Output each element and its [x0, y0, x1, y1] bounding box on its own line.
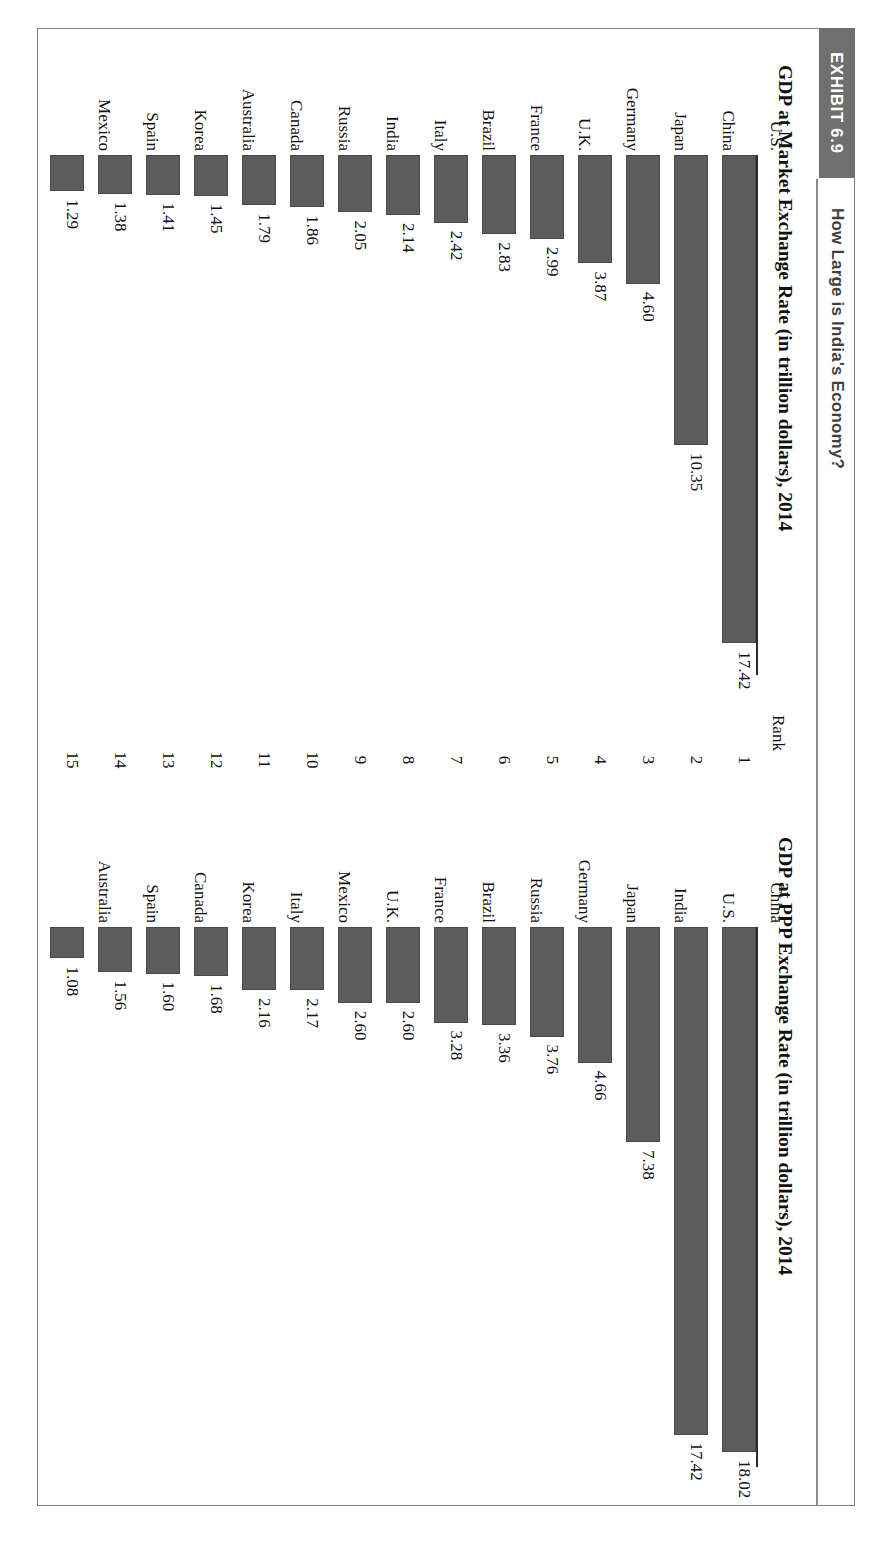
bar-row: Mexico1.29: [36, 63, 84, 683]
bar-row: Brazil2.42: [420, 63, 468, 683]
bar-wrapper: [482, 927, 516, 1025]
ppp-chart-bars: China18.02U.S.17.42India7.38Japan4.66Ger…: [36, 835, 756, 1495]
bar-value-label: 2.83: [494, 242, 514, 272]
bar-wrapper: [434, 155, 468, 223]
bar-wrapper: [194, 155, 228, 196]
bar-value-label: 18.02: [734, 1460, 754, 1498]
bar: [50, 927, 84, 958]
bar-wrapper: [674, 155, 708, 445]
ppp-chart-axis: [756, 927, 758, 1467]
bar: [578, 927, 612, 1063]
category-label: India: [382, 0, 402, 151]
category-label: U.K.: [574, 0, 594, 151]
bar-wrapper: [50, 927, 84, 958]
bar: [242, 927, 276, 990]
bar: [434, 927, 468, 1023]
bar-row: India7.38: [612, 835, 660, 1495]
bar-wrapper: [626, 155, 660, 284]
bar-wrapper: [50, 155, 84, 191]
bar: [290, 927, 324, 990]
bar: [146, 155, 180, 195]
bar: [530, 155, 564, 239]
bar-wrapper: [482, 155, 516, 234]
bar: [338, 155, 372, 212]
bar-wrapper: [434, 927, 468, 1023]
bar-wrapper: [242, 155, 276, 205]
market-chart-axis: [756, 155, 758, 675]
ppp-exchange-chart: GDP at PPP Exchange Rate (in trillion do…: [42, 835, 802, 1495]
bar-row: Germany3.76: [516, 835, 564, 1495]
bar-row: France2.60: [372, 835, 420, 1495]
bar-row: Germany3.87: [564, 63, 612, 683]
bar: [626, 927, 660, 1142]
bar-wrapper: [194, 927, 228, 976]
bar: [482, 927, 516, 1025]
exhibit-page: EXHIBIT 6.9 How Large is India's Economy…: [0, 0, 887, 1548]
bar: [146, 927, 180, 974]
bar-row: Australia1.45: [180, 63, 228, 683]
exhibit-tag: EXHIBIT 6.9: [819, 28, 855, 178]
category-label: Australia: [94, 723, 114, 923]
bar-wrapper: [98, 927, 132, 972]
bar-value-label: 2.16: [254, 998, 274, 1028]
category-label: U.K.: [382, 723, 402, 923]
bar: [434, 155, 468, 223]
category-label: Mexico: [94, 0, 114, 151]
category-label: France: [430, 723, 450, 923]
bar: [722, 155, 756, 643]
bar-row: China18.02: [708, 835, 756, 1495]
category-label: Korea: [238, 723, 258, 923]
bar-wrapper: [578, 155, 612, 263]
bar-value-label: 1.60: [158, 982, 178, 1012]
category-label: Italy: [430, 0, 450, 151]
bar: [290, 155, 324, 207]
bar-row: China10.35: [660, 63, 708, 683]
exhibit-frame: EXHIBIT 6.9 How Large is India's Economy…: [37, 28, 855, 1506]
bar-row: U.S.17.42: [708, 63, 756, 683]
bar-value-label: 1.38: [110, 202, 130, 232]
bar-row: Italy2.16: [228, 835, 276, 1495]
bar: [674, 927, 708, 1435]
bar: [194, 927, 228, 976]
category-label: U.S.: [718, 723, 738, 923]
bar-value-label: 1.68: [206, 984, 226, 1014]
category-label: Canada: [190, 723, 210, 923]
bar: [386, 927, 420, 1003]
rotated-page-wrapper: EXHIBIT 6.9 How Large is India's Economy…: [0, 0, 887, 1548]
bar-row: France2.83: [468, 63, 516, 683]
bar: [482, 155, 516, 234]
bar-wrapper: [722, 927, 756, 1452]
bar-value-label: 3.87: [590, 271, 610, 301]
bar-wrapper: [242, 927, 276, 990]
bar-wrapper: [290, 927, 324, 990]
bar-row: U.K.2.60: [324, 835, 372, 1495]
bar: [338, 927, 372, 1003]
category-label: India: [670, 723, 690, 923]
exhibit-title: How Large is India's Economy?: [820, 178, 854, 469]
rank-value: 15: [36, 701, 84, 819]
bar: [98, 155, 132, 194]
bar-wrapper: [386, 155, 420, 215]
category-label: Japan: [622, 723, 642, 923]
category-label: France: [526, 0, 546, 151]
bar-row: Brazil3.28: [420, 835, 468, 1495]
bar-value-label: 2.14: [398, 223, 418, 253]
bar-row: Mexico2.17: [276, 835, 324, 1495]
bar-value-label: 2.99: [542, 247, 562, 277]
bar-value-label: 1.45: [206, 204, 226, 234]
bar-row: India2.05: [324, 63, 372, 683]
bar-value-label: 7.38: [638, 1150, 658, 1180]
exhibit-header: EXHIBIT 6.9 How Large is India's Economy…: [820, 29, 854, 1505]
bar-wrapper: [98, 155, 132, 194]
bar-value-label: 2.60: [398, 1011, 418, 1041]
bar-value-label: 1.41: [158, 203, 178, 233]
header-divider: [817, 179, 819, 1506]
bar-value-label: 17.42: [734, 651, 754, 689]
bar-row: Japan4.60: [612, 63, 660, 683]
bar-value-label: 2.60: [350, 1011, 370, 1041]
category-label: U.S.: [766, 0, 786, 151]
bar-row: U.S.17.42: [660, 835, 708, 1495]
category-label: Germany: [622, 0, 642, 151]
bar-wrapper: [338, 155, 372, 212]
bar-row: Canada1.60: [132, 835, 180, 1495]
